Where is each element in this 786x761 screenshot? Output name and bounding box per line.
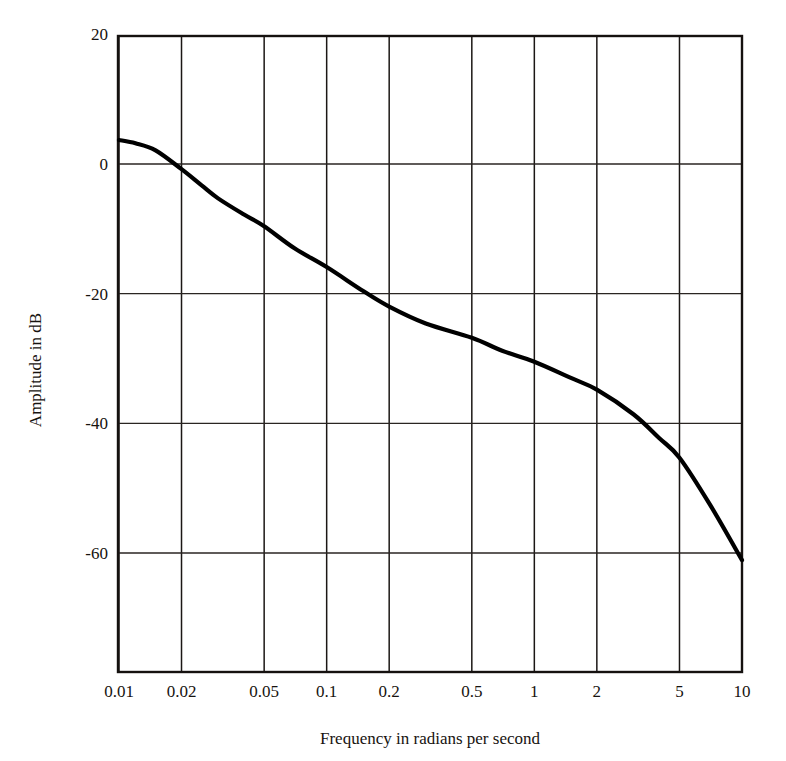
- x-axis-title: Frequency in radians per second: [320, 729, 540, 748]
- x-tick-label: 5: [675, 682, 684, 701]
- y-axis-title: Amplitude in dB: [26, 313, 45, 427]
- x-tick-label: 0.5: [461, 682, 482, 701]
- x-tick-label: 1: [530, 682, 539, 701]
- x-tick-label: 10: [734, 682, 751, 701]
- bode-amplitude-figure: 0.010.020.050.10.20.512510 200-20-40-60 …: [0, 0, 786, 761]
- chart-canvas: 0.010.020.050.10.20.512510 200-20-40-60 …: [0, 0, 786, 761]
- y-tick-label: -60: [85, 544, 108, 563]
- y-tick-label: -40: [85, 414, 108, 433]
- x-tick-label: 0.02: [167, 682, 197, 701]
- y-tick-label: 0: [100, 155, 109, 174]
- x-tick-label: 0.05: [249, 682, 279, 701]
- y-tick-label: 20: [91, 25, 108, 44]
- x-tick-label: 0.1: [316, 682, 337, 701]
- x-tick-label: 0.01: [104, 682, 134, 701]
- x-tick-label: 0.2: [379, 682, 400, 701]
- x-tick-label: 2: [593, 682, 602, 701]
- y-tick-label: -20: [85, 285, 108, 304]
